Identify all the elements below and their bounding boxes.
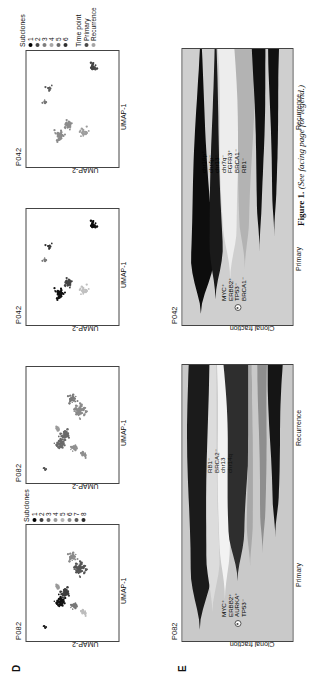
legend-swatch xyxy=(67,518,71,522)
legend-item: 4 xyxy=(47,14,54,47)
scatter-cluster xyxy=(69,444,77,452)
legend-label: 6 xyxy=(61,37,68,41)
umap-ylabel-d3: UMAP-2 xyxy=(72,325,98,332)
scatter-cluster xyxy=(69,602,77,610)
legend-item: 6 xyxy=(65,489,72,522)
legend-label: 5 xyxy=(58,512,65,516)
legend-swatch xyxy=(35,43,39,47)
legend-subclones-d4: Subclones 123456 xyxy=(18,14,68,47)
legend-item: 5 xyxy=(58,489,65,522)
scatter-cluster xyxy=(53,287,66,301)
legend-label: Recurrence xyxy=(89,7,96,41)
gene-labels-primary-e2: MYC⁺ERBB2⁺TP53⁻BRCA1⁻ xyxy=(220,277,246,301)
legend-item: 3 xyxy=(40,14,47,47)
scatter-cluster xyxy=(73,402,88,420)
legend-swatch xyxy=(60,518,64,522)
umap-title-d4: P042 xyxy=(13,148,22,166)
scatter-cluster xyxy=(55,584,60,590)
legend-label: 4 xyxy=(51,512,58,516)
umap-panel-d4: P042 UMAP-2 UMAP-1 Subclones 123456 Time… xyxy=(14,50,134,168)
scatter-cluster xyxy=(66,551,78,562)
umap-xlabel-d4: UMAP-1 xyxy=(119,104,126,130)
gene-labels-recurrence-e2: chr16p⁺chr4p⁻chr13⁻chr7q⁻FGFR3⁺BRCA1⁻RB1… xyxy=(200,149,246,173)
scatter-cluster xyxy=(78,125,89,137)
scatter-cluster xyxy=(89,62,97,71)
scatter-cluster xyxy=(42,625,47,629)
legend-item: 6 xyxy=(61,14,68,47)
legend-label: 4 xyxy=(47,37,54,41)
legend-item: 5 xyxy=(54,14,61,47)
scatter-cluster xyxy=(55,426,60,432)
panel-letter-e: E xyxy=(176,665,187,672)
fish-plot-area-e2: MYC⁺ERBB2⁺TP53⁻BRCA1⁻ chr16p⁺chr4p⁻chr13… xyxy=(181,48,293,326)
gene-label: RB1⁻ xyxy=(240,149,247,173)
umap-panel-d3: P042 UMAP-2 UMAP-1 xyxy=(14,208,134,326)
scatter-cluster xyxy=(41,99,47,104)
founder-node-marker-e2 xyxy=(234,304,241,311)
legend-swatch xyxy=(63,43,67,47)
fish-xtick-primary-e1: Primary xyxy=(294,563,301,587)
umap-title-d1: P082 xyxy=(13,622,22,640)
legend-label: 3 xyxy=(44,512,51,516)
legend-swatch xyxy=(32,518,36,522)
legend-swatch xyxy=(84,43,88,47)
founder-node-marker-e1 xyxy=(234,620,241,627)
legend-timepoint-d4: Time point PrimaryRecurrence xyxy=(74,7,96,47)
umap-title-d3: P042 xyxy=(13,306,22,324)
umap-ylabel-d2: UMAP-2 xyxy=(72,483,98,490)
legend-label: 1 xyxy=(26,37,33,41)
legend-swatch xyxy=(49,43,53,47)
gene-label: chr14q xyxy=(226,449,233,473)
legend-swatch xyxy=(46,518,50,522)
legend-label: 2 xyxy=(37,512,44,516)
legend-label: 6 xyxy=(65,512,72,516)
umap-panel-d2: P082 UMAP-2 UMAP-1 xyxy=(14,366,134,484)
scatter-cluster xyxy=(80,609,87,617)
legend-label: 7 xyxy=(72,512,79,516)
figure-canvas: D P082 UMAP-2 UMAP-1 Subclones 12345678 … xyxy=(0,0,329,678)
legend-title: Subclones xyxy=(22,489,29,522)
gene-labels-recurrence-e1: RB1⁻BRCA2⁻chr13chr14q xyxy=(206,449,232,473)
umap-plot-area-d4 xyxy=(25,50,119,168)
legend-item: 3 xyxy=(44,489,51,522)
scatter-cluster xyxy=(63,277,72,289)
scatter-cluster xyxy=(80,451,87,459)
legend-swatch xyxy=(74,518,78,522)
umap-scatter-d3 xyxy=(26,209,118,325)
fish-plot-area-e1: MYC⁺ERBB2⁺AURKA⁺TP53⁻ RB1⁻BRCA2⁻chr13chr… xyxy=(181,364,293,642)
scatter-cluster xyxy=(73,560,88,578)
panel-letter-d: D xyxy=(10,665,21,672)
scatter-cluster xyxy=(44,243,52,250)
fishplot-panel-e1: P082 MYC⁺ERBB2⁺AURKA⁺TP53⁻ RB1⁻BRCA2⁻chr… xyxy=(170,362,320,642)
caption-label: Figure 1. xyxy=(295,192,305,226)
caption-text: (See facing page for legend.) xyxy=(295,85,305,189)
umap-scatter-d2 xyxy=(26,367,118,483)
legend-swatch xyxy=(42,43,46,47)
fish-xtick-primary-e2: Primary xyxy=(294,247,301,271)
legend-swatch xyxy=(81,518,85,522)
umap-scatter-d1 xyxy=(26,525,118,641)
umap-xlabel-d3: UMAP-1 xyxy=(119,262,126,288)
legend-title: Time point xyxy=(74,7,81,47)
scatter-cluster xyxy=(53,129,66,143)
legend-item: 8 xyxy=(79,489,86,522)
legend-item: 2 xyxy=(37,489,44,522)
scatter-cluster xyxy=(44,85,52,92)
scatter-cluster xyxy=(63,119,72,131)
umap-panel-d1: P082 UMAP-2 UMAP-1 Subclones 12345678 xyxy=(14,524,134,642)
scatter-cluster xyxy=(89,220,97,229)
legend-item: 1 xyxy=(30,489,37,522)
legend-item: 4 xyxy=(51,489,58,522)
legend-item: 1 xyxy=(26,14,33,47)
umap-scatter-d4 xyxy=(26,51,118,167)
legend-swatch xyxy=(56,43,60,47)
legend-label: 3 xyxy=(40,37,47,41)
legend-swatch xyxy=(91,43,95,47)
umap-ylabel-d1: UMAP-2 xyxy=(72,641,98,648)
gene-labels-primary-e1: MYC⁺ERBB2⁺AURKA⁺TP53⁻ xyxy=(220,593,246,617)
legend-label: 2 xyxy=(33,37,40,41)
legend-item: Primary xyxy=(82,7,89,47)
fish-title-e2: P042 xyxy=(169,306,178,324)
legend-label: 1 xyxy=(30,512,37,516)
figure-caption: Figure 1. (See facing page for legend.) xyxy=(295,85,305,226)
